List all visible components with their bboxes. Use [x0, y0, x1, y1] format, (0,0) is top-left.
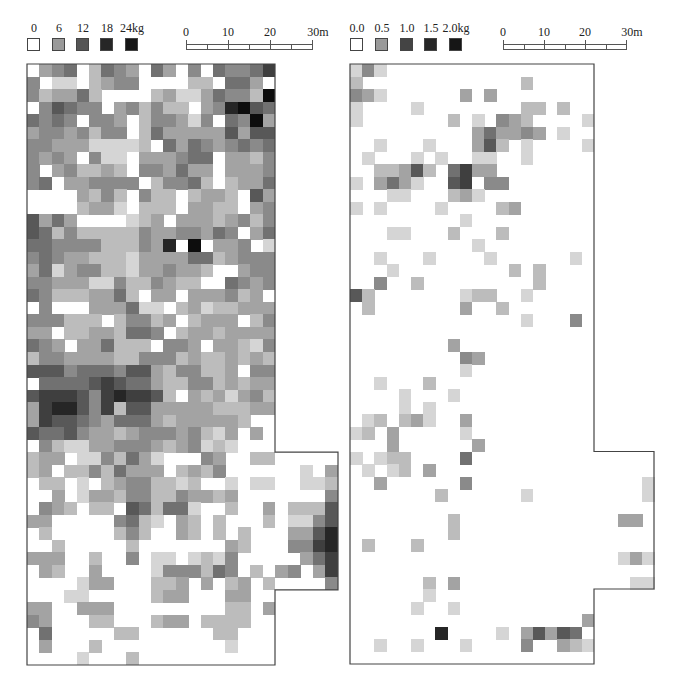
grid-cell [39, 390, 52, 403]
grid-cell [101, 352, 114, 365]
grid-cell [126, 627, 139, 640]
grid-cell [89, 465, 102, 478]
grid-cell [484, 89, 497, 102]
grid-cell [77, 227, 90, 240]
grid-cell [139, 465, 152, 478]
grid-cell [213, 352, 226, 365]
grid-cell [39, 527, 52, 540]
grid-cell [52, 377, 65, 390]
grid-cell [225, 365, 238, 378]
grid-cell [114, 239, 127, 252]
grid-cell [557, 639, 570, 652]
grid-cell [250, 127, 263, 140]
grid-cell [139, 402, 152, 415]
scale-bar-tick [270, 40, 271, 50]
scale-bar-tick [228, 40, 229, 50]
grid-cell [176, 214, 189, 227]
grid-cell [496, 139, 509, 152]
grid-cell [52, 89, 65, 102]
grid-cell [27, 77, 40, 90]
grid-cell [238, 327, 251, 340]
grid-cell [460, 302, 473, 315]
legend-swatch [400, 38, 413, 51]
grid-cell [114, 102, 127, 115]
grid-cell [27, 615, 40, 628]
grid-cell [64, 177, 77, 190]
grid-cell [77, 602, 90, 615]
grid-cell [642, 577, 655, 590]
grid-cell [225, 427, 238, 440]
grid-cell [176, 177, 189, 190]
grid-cell [27, 214, 40, 227]
grid-cell [114, 252, 127, 265]
grid-cell [435, 489, 448, 502]
grid-cell [176, 502, 189, 515]
grid-cell [448, 164, 461, 177]
grid-cell [176, 277, 189, 290]
grid-cell [101, 477, 114, 490]
grid-cell [250, 352, 263, 365]
grid-cell [77, 127, 90, 140]
scale-bar-label: 20 [264, 25, 276, 40]
grid-cell [151, 102, 164, 115]
grid-cell [288, 540, 301, 553]
grid-cell [101, 114, 114, 127]
grid-cell [213, 127, 226, 140]
grid-cell [77, 452, 90, 465]
grid-cell [151, 327, 164, 340]
grid-cell [238, 590, 251, 603]
grid-cell [250, 102, 263, 115]
scale-bar-tick [291, 44, 292, 50]
grid-cell [77, 177, 90, 190]
scale-bar-label: 30m [307, 25, 328, 40]
grid-cell [399, 189, 412, 202]
grid-cell [126, 227, 139, 240]
grid-cell [225, 302, 238, 315]
grid-cell [362, 89, 375, 102]
grid-cell [238, 577, 251, 590]
grid-cell [374, 139, 387, 152]
grid-cell [213, 214, 226, 227]
grid-cell [472, 439, 485, 452]
grid-cell [213, 64, 226, 77]
grid-cell [101, 615, 114, 628]
grid-cell [101, 490, 114, 503]
grid-cell [325, 527, 338, 540]
grid-cell [89, 252, 102, 265]
grid-cell [263, 365, 276, 378]
grid-cell [163, 427, 176, 440]
grid-cell [151, 302, 164, 315]
grid-cell [399, 464, 412, 477]
grid-cell [423, 464, 436, 477]
grid-cell [521, 639, 534, 652]
grid-cell [374, 277, 387, 290]
grid-cell [163, 390, 176, 403]
grid-cell [225, 477, 238, 490]
grid-cell [570, 639, 583, 652]
grid-cell [151, 277, 164, 290]
grid-cell [151, 152, 164, 165]
grid-cell [77, 327, 90, 340]
grid-cell [362, 464, 375, 477]
grid-cell [139, 390, 152, 403]
grid-cell [39, 89, 52, 102]
grid-cell [288, 527, 301, 540]
grid-cell [238, 615, 251, 628]
grid-cell [77, 577, 90, 590]
grid-cell [89, 602, 102, 615]
grid-cell [533, 627, 546, 640]
grid-cell [27, 239, 40, 252]
grid-cell [27, 277, 40, 290]
grid-cell [225, 77, 238, 90]
grid-cell [225, 139, 238, 152]
grid-cell [350, 452, 363, 465]
grid-cell [39, 302, 52, 315]
grid-cell [225, 602, 238, 615]
grid-cell [52, 565, 65, 578]
grid-cell [163, 352, 176, 365]
grid-cell [423, 252, 436, 265]
grid-cell [139, 139, 152, 152]
grid-cell [151, 177, 164, 190]
grid-cell [288, 515, 301, 528]
grid-cell [114, 627, 127, 640]
